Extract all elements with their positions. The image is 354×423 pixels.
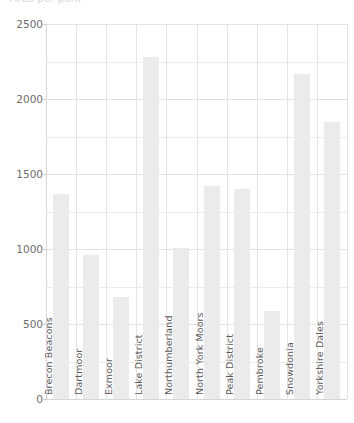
y-axis-tick-label: 1000 bbox=[1, 244, 43, 255]
x-axis-tick-label: Dartmoor bbox=[84, 307, 96, 399]
gridline-vertical bbox=[257, 24, 258, 399]
x-axis-tick-label-text: Yorkshire Dales bbox=[315, 321, 325, 395]
bar-chart: Area per park 05001000150020002500 Breco… bbox=[0, 0, 354, 423]
gridline-vertical bbox=[347, 24, 348, 399]
x-axis-line bbox=[46, 399, 347, 400]
x-axis-tick-label-text: Dartmoor bbox=[74, 349, 84, 395]
x-axis-tick-label: Northumberland bbox=[174, 307, 186, 399]
x-axis-tick-label: Pembroke bbox=[265, 307, 277, 399]
plot-area: Brecon BeaconsDartmoorExmoorLake Distric… bbox=[46, 24, 347, 399]
y-axis-tick-label: 0 bbox=[1, 394, 43, 405]
x-axis-tick-label-text: North York Moors bbox=[195, 312, 205, 395]
y-axis-line bbox=[46, 24, 47, 399]
x-axis-tick-label: North York Moors bbox=[205, 307, 217, 399]
x-axis-tick-label-text: Northumberland bbox=[164, 315, 174, 395]
gridline-vertical bbox=[76, 24, 77, 399]
x-axis-tick-label: Peak District bbox=[235, 307, 247, 399]
y-axis-tick-label: 2500 bbox=[1, 19, 43, 30]
y-axis-tick-label: 1500 bbox=[1, 169, 43, 180]
x-axis-tick-label-text: Snowdonia bbox=[285, 342, 295, 395]
x-axis-tick-label: Lake District bbox=[144, 307, 156, 399]
x-axis-tick-label: Exmoor bbox=[114, 307, 126, 399]
gridline-vertical bbox=[106, 24, 107, 399]
x-axis-tick-label-text: Peak District bbox=[225, 334, 235, 395]
y-axis-tick-label: 2000 bbox=[1, 94, 43, 105]
y-axis-tick-label: 500 bbox=[1, 319, 43, 330]
x-axis-tick-label: Yorkshire Dales bbox=[325, 307, 337, 399]
x-axis-tick-label: Snowdonia bbox=[295, 307, 307, 399]
x-axis-tick-label: Brecon Beacons bbox=[54, 307, 66, 399]
x-axis-tick-label-text: Pembroke bbox=[255, 347, 265, 395]
y-axis-labels: 05001000150020002500 bbox=[0, 24, 43, 399]
x-axis-tick-label-text: Lake District bbox=[134, 334, 144, 395]
x-axis-tick-label-text: Exmoor bbox=[104, 358, 114, 395]
chart-title: Area per park bbox=[10, 0, 81, 5]
